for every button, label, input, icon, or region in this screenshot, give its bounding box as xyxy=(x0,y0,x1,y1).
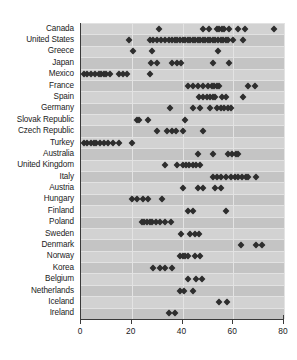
vertical-gridline xyxy=(284,23,285,319)
vertical-gridline xyxy=(183,23,184,319)
category-label-spain: Spain xyxy=(54,92,74,101)
x-tick-label: 20 xyxy=(126,326,135,336)
category-label-poland: Poland xyxy=(49,217,74,226)
category-label-norway: Norway xyxy=(47,251,74,260)
category-label-netherlands: Netherlands xyxy=(31,286,74,295)
x-tick xyxy=(232,320,233,324)
category-label-korea: Korea xyxy=(53,263,74,272)
category-label-czech-republic: Czech Republic xyxy=(18,126,74,135)
category-label-turkey: Turkey xyxy=(50,138,74,147)
category-label-mexico: Mexico xyxy=(49,69,74,78)
x-tick xyxy=(80,320,81,324)
category-label-sweden: Sweden xyxy=(45,229,74,238)
category-label-australia: Australia xyxy=(43,149,74,158)
category-label-belgium: Belgium xyxy=(45,274,74,283)
category-label-france: France xyxy=(49,81,74,90)
category-label-ireland: Ireland xyxy=(50,308,74,317)
x-tick xyxy=(131,320,132,324)
x-tick-label: 60 xyxy=(228,326,237,336)
dot-plot-chart: CanadaUnited StatesGreeceJapanMexicoFran… xyxy=(0,0,297,360)
category-axis-labels: CanadaUnited StatesGreeceJapanMexicoFran… xyxy=(0,0,78,360)
x-tick xyxy=(182,320,183,324)
category-label-slovak-republic: Slovak Republic xyxy=(17,115,74,124)
category-label-japan: Japan xyxy=(52,58,74,67)
x-tick-label: 80 xyxy=(278,326,287,336)
x-tick-label: 40 xyxy=(177,326,186,336)
category-label-denmark: Denmark xyxy=(41,240,74,249)
plot-area xyxy=(80,23,284,319)
vertical-gridline xyxy=(233,23,234,319)
category-label-finland: Finland xyxy=(48,206,74,215)
category-label-italy: Italy xyxy=(59,172,74,181)
category-label-germany: Germany xyxy=(41,103,74,112)
x-tick xyxy=(283,320,284,324)
category-label-hungary: Hungary xyxy=(44,194,74,203)
vertical-gridline xyxy=(132,23,133,319)
category-label-united-states: United States xyxy=(26,35,74,44)
category-label-austria: Austria xyxy=(49,183,74,192)
category-label-canada: Canada xyxy=(46,24,74,33)
category-label-united-kingdom: United Kingdom xyxy=(17,160,74,169)
x-tick-label: 0 xyxy=(78,326,83,336)
category-label-iceland: Iceland xyxy=(48,297,74,306)
category-label-greece: Greece xyxy=(48,46,74,55)
